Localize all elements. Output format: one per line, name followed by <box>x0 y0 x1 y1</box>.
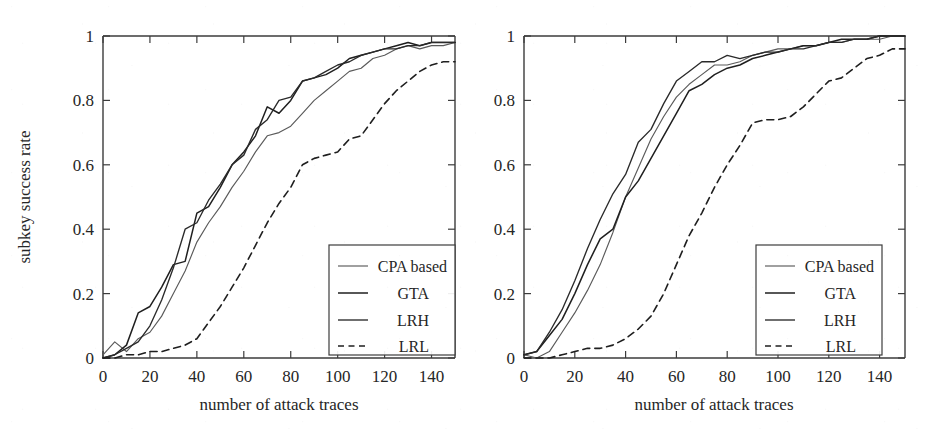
legend-label-lrl: LRL <box>399 338 429 355</box>
y-tick-label: 0.2 <box>73 285 94 304</box>
right-x-ticklabels: 020406080100120140 <box>520 367 893 386</box>
x-tick-label: 60 <box>235 367 252 386</box>
x-tick-label: 120 <box>372 367 398 386</box>
x-tick-label: 120 <box>816 367 842 386</box>
x-tick-label: 40 <box>188 367 205 386</box>
y-tick-label: 0.6 <box>494 156 515 175</box>
y-tick-label: 0.4 <box>73 220 95 239</box>
right-y-ticklabels: 00.20.40.60.81 <box>494 27 516 368</box>
x-tick-label: 20 <box>566 367 583 386</box>
y-tick-label: 1 <box>507 27 516 46</box>
y-tick-label: 0.8 <box>73 91 94 110</box>
figure-two-panel-success-rate: 00.20.40.60.81 020406080100120140 CPA ba… <box>0 0 940 436</box>
x-tick-label: 80 <box>719 367 736 386</box>
left-y-axis-title: subkey success rate <box>15 130 34 263</box>
legend-label-gta: GTA <box>824 285 856 302</box>
chart-panel-left: 00.20.40.60.81 020406080100120140 CPA ba… <box>0 0 470 436</box>
left-y-ticklabels: 00.20.40.60.81 <box>73 27 95 368</box>
x-tick-label: 60 <box>668 367 685 386</box>
x-tick-label: 100 <box>325 367 351 386</box>
y-tick-label: 0.2 <box>494 285 515 304</box>
right-panel-svg: 00.20.40.60.81 020406080100120140 CPA ba… <box>470 0 940 436</box>
x-tick-label: 140 <box>419 367 445 386</box>
right-legend: CPA based GTA LRH LRL <box>756 245 882 355</box>
legend-label-cpa-based: CPA based <box>805 258 874 275</box>
x-tick-label: 140 <box>867 367 893 386</box>
x-tick-label: 80 <box>282 367 299 386</box>
y-tick-label: 0.4 <box>494 220 516 239</box>
chart-panel-right: 00.20.40.60.81 020406080100120140 CPA ba… <box>470 0 940 436</box>
legend-label-cpa-based: CPA based <box>378 258 447 275</box>
legend-label-lrh: LRH <box>397 312 429 329</box>
right-x-axis-title: number of attack traces <box>634 395 793 414</box>
x-tick-label: 0 <box>520 367 529 386</box>
left-x-ticklabels: 020406080100120140 <box>99 367 445 386</box>
x-tick-label: 20 <box>141 367 158 386</box>
x-tick-label: 0 <box>99 367 108 386</box>
left-legend: CPA based GTA LRH LRL <box>329 245 455 355</box>
left-panel-svg: 00.20.40.60.81 020406080100120140 CPA ba… <box>0 0 470 436</box>
y-tick-label: 0.6 <box>73 156 94 175</box>
legend-label-lrh: LRH <box>824 312 856 329</box>
y-tick-label: 1 <box>86 27 95 46</box>
legend-label-gta: GTA <box>397 285 429 302</box>
y-tick-label: 0 <box>86 349 95 368</box>
x-tick-label: 100 <box>765 367 791 386</box>
y-tick-label: 0 <box>507 349 516 368</box>
left-x-axis-title: number of attack traces <box>199 395 358 414</box>
y-tick-label: 0.8 <box>494 91 515 110</box>
x-tick-label: 40 <box>617 367 634 386</box>
legend-label-lrl: LRL <box>826 338 856 355</box>
